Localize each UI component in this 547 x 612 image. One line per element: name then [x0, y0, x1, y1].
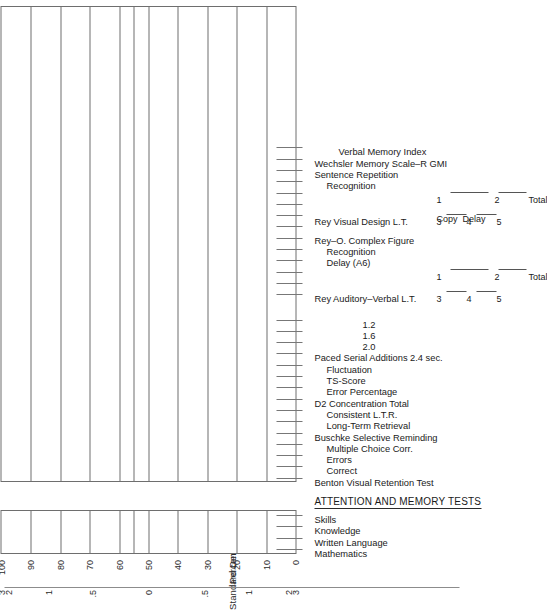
memory-tick-8: [276, 204, 302, 205]
grid-line-80: [60, 511, 61, 553]
trial-label-rey-auditory-verbal-l-t--5: 5: [496, 295, 501, 304]
sd-tick-5: .5: [87, 590, 97, 598]
grid-line-60: [119, 7, 120, 481]
total-connector-rey-visual-design-l-t-: [498, 192, 526, 193]
sd-tick-4: 0: [143, 590, 153, 595]
attention-memory-tick-4: [276, 387, 302, 388]
attention-memory-tick-0: [276, 433, 302, 434]
part-label-rey-o-complex-figure-delay: Delay: [462, 215, 485, 224]
trial-label-rey-visual-design-l-t--top-2: 2: [494, 196, 499, 205]
attention-memory-tick-8: [276, 342, 302, 343]
sd-tick-2: 1: [243, 590, 253, 595]
grid-line-30: [207, 7, 208, 481]
row-label-skills: Skills: [314, 516, 336, 525]
grid-line-20: [236, 511, 237, 553]
row-label-error-percentage: Error Percentage: [326, 388, 397, 397]
trial-label-rey-auditory-verbal-l-t--4: 4: [466, 295, 471, 304]
row-label-1-6: 1.6: [362, 332, 375, 341]
row-label-written-language: Written Language: [314, 539, 387, 548]
percentile-tick-70: 70: [84, 560, 94, 570]
row-label-1-2: 1.2: [362, 321, 375, 330]
row-label-recognition: Recognition: [326, 182, 375, 191]
memory-tick-10: [276, 181, 302, 182]
achievement-tick-2: [276, 526, 302, 527]
row-label-rey-auditory-verbal-l-t-: Rey Auditory–Verbal L.T.: [314, 295, 416, 304]
benton-tick-3: [276, 444, 302, 445]
trial-label-rey-visual-design-l-t--top-1: 1: [436, 196, 441, 205]
grid-line-20: [236, 7, 237, 481]
percentile-tick-40: 40: [172, 560, 182, 570]
attention-memory-tick-5: [276, 376, 302, 377]
memory-tick-5: [276, 238, 302, 239]
row-label-paced-serial-additions-2-4-sec-: Paced Serial Additions 2.4 sec.: [314, 355, 442, 364]
benton-tick-1: [276, 467, 302, 468]
memory-tick-11: [276, 170, 302, 171]
grid-line-10: [266, 7, 267, 481]
total-label-rey-auditory-verbal-l-t-: Total: [528, 273, 547, 282]
percentile-tick-80: 80: [55, 560, 65, 570]
attention-memory-tick-10: [276, 320, 302, 321]
benton-tick-0: [276, 478, 302, 479]
memory-tick-1: [276, 283, 302, 284]
attention-memory-tick-6: [276, 365, 302, 366]
percentile-tick-90: 90: [25, 560, 35, 570]
row-label-delay-a6-: Delay (A6): [326, 259, 370, 268]
row-label-fluctuation: Fluctuation: [326, 366, 371, 375]
benton-tick-2: [276, 455, 302, 456]
attention-memory-tick-3: [276, 399, 302, 400]
section-heading-attention-memory: ATTENTION AND MEMORY TESTS: [314, 496, 481, 509]
memory-tick-7: [276, 215, 302, 216]
grid-line-70: [89, 7, 90, 481]
trial-connector-rey-auditory-verbal-l-t--0: [446, 291, 466, 292]
grid-line-40: [177, 511, 178, 553]
total-connector-rey-auditory-verbal-l-t-: [498, 269, 526, 270]
achievement-tick-1: [276, 538, 302, 539]
memory-tick-12: [276, 159, 302, 160]
achievement-tick-3: [276, 515, 302, 516]
sd-tick-8: 3: [0, 590, 6, 595]
narrow-score-grid[interactable]: [0, 510, 296, 554]
total-label-rey-visual-design-l-t-: Total: [528, 196, 547, 205]
sd-tick-1: 2: [283, 590, 293, 595]
row-label-multiple-choice-corr-: Multiple Choice Corr.: [326, 445, 412, 454]
wide-profile-grid[interactable]: [0, 6, 296, 482]
grid-line-50: [148, 511, 149, 553]
trial-label-rey-auditory-verbal-l-t--3: 3: [436, 295, 441, 304]
row-label-d2-concentration-total: D2 Concentration Total: [314, 400, 408, 409]
percentile-tick-0: 0: [290, 560, 300, 565]
row-label-consistent-l-t-r-: Consistent L.T.R.: [326, 411, 397, 420]
row-label-buschke-selective-reminding: Buschke Selective Reminding: [314, 434, 437, 443]
grid-line-70: [89, 511, 90, 553]
trial-label-rey-visual-design-l-t--5: 5: [496, 218, 501, 227]
memory-tick-0: [276, 294, 302, 295]
row-label-long-term-retrieval: Long-Term Retrieval: [326, 422, 410, 431]
row-label-errors: Errors: [326, 456, 351, 465]
memory-tick-13: [276, 147, 302, 148]
row-label-recognition: Recognition: [326, 248, 375, 257]
row-label-wechsler-memory-scale-r-gmi: Wechsler Memory Scale–R GMI: [314, 160, 447, 169]
memory-tick-4: [276, 249, 302, 250]
attention-memory-tick-1: [276, 421, 302, 422]
memory-tick-2: [276, 272, 302, 273]
grid-line-10: [266, 511, 267, 553]
grid-line-90: [30, 7, 31, 481]
row-label-mathematics: Mathematics: [314, 550, 367, 559]
row-label-area: ATTENTION AND MEMORY TESTS MathematicsWr…: [306, 0, 463, 612]
attention-memory-tick-7: [276, 354, 302, 355]
grid-line-60: [119, 511, 120, 553]
row-label-2-0: 2.0: [362, 343, 375, 352]
grid-line-55: [133, 511, 134, 553]
trial-connector-rey-auditory-verbal-l-t--top: [450, 269, 488, 270]
percentile-tick-50: 50: [143, 560, 153, 570]
memory-tick-9: [276, 193, 302, 194]
trial-label-rey-visual-design-l-t--3: 3: [436, 218, 441, 227]
percentile-tick-20: 20: [231, 560, 241, 570]
attention-memory-tick-9: [276, 331, 302, 332]
sd-tick-3: .5: [199, 590, 209, 598]
row-label-verbal-memory-index: Verbal Memory Index: [338, 148, 426, 157]
trial-connector-rey-visual-design-l-t--top: [450, 192, 488, 193]
row-label-correct: Correct: [326, 468, 356, 477]
grid-line-30: [207, 511, 208, 553]
